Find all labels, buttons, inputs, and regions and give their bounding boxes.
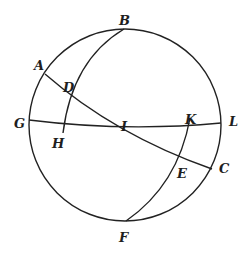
label-h: H xyxy=(51,136,65,151)
label-k: K xyxy=(184,112,197,127)
label-c: C xyxy=(219,161,230,176)
label-e: E xyxy=(176,166,188,181)
diagram-canvas: A B C D E F G H I K L xyxy=(0,0,251,254)
label-l: L xyxy=(228,114,238,129)
label-g: G xyxy=(14,116,25,131)
label-b: B xyxy=(118,13,130,28)
diagram-svg: A B C D E F G H I K L xyxy=(0,0,251,254)
label-f: F xyxy=(118,230,129,245)
label-i: I xyxy=(120,119,128,134)
label-a: A xyxy=(32,58,44,73)
label-d: D xyxy=(62,80,75,95)
